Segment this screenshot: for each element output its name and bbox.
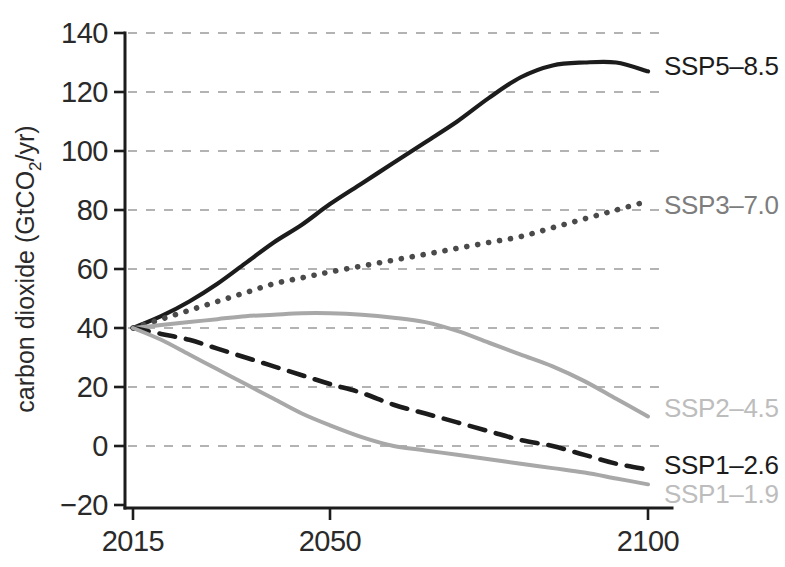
x-tick-label: 2100 xyxy=(617,525,680,557)
series-label-ssp5-8-5: SSP5–8.5 xyxy=(664,51,779,81)
y-tick-label: 40 xyxy=(77,312,108,344)
series-labels: SSP5–8.5SSP3–7.0SSP2–4.5SSP1–2.6SSP1–1.9 xyxy=(664,51,779,509)
gridlines xyxy=(128,33,660,446)
y-tick-label: 60 xyxy=(77,253,108,285)
y-tick-label: 100 xyxy=(61,135,108,167)
y-axis-title-subscript: 2 xyxy=(26,161,45,170)
y-axis-title-text: carbon dioxide (GtCO2/yr) xyxy=(11,125,45,412)
series-line-ssp1-2-6 xyxy=(133,328,648,470)
series-label-ssp3-7-0: SSP3–7.0 xyxy=(664,190,779,220)
y-axis-title-post: /yr) xyxy=(11,125,39,161)
data-series xyxy=(133,62,648,485)
axes xyxy=(125,33,672,508)
series-label-ssp1-2-6: SSP1–2.6 xyxy=(664,450,779,480)
series-line-ssp1-1-9 xyxy=(133,328,648,484)
y-axis-title: carbon dioxide (GtCO2/yr) xyxy=(11,125,45,412)
x-axis-ticks: 201520502100 xyxy=(102,508,680,557)
series-line-ssp3-7-0 xyxy=(133,201,648,328)
chart-canvas: −20020406080100120140 201520502100 SSP5–… xyxy=(0,0,785,567)
series-label-ssp1-1-9: SSP1–1.9 xyxy=(664,479,779,509)
y-tick-label: 80 xyxy=(77,194,108,226)
co2-emissions-chart: −20020406080100120140 201520502100 SSP5–… xyxy=(0,0,785,567)
x-tick-label: 2015 xyxy=(102,525,165,557)
series-line-ssp5-8-5 xyxy=(133,62,648,328)
y-tick-label: 0 xyxy=(92,430,108,462)
series-label-ssp2-4-5: SSP2–4.5 xyxy=(664,393,779,423)
y-tick-label: 140 xyxy=(61,17,108,49)
y-tick-label: −20 xyxy=(60,489,108,521)
y-tick-label: 20 xyxy=(77,371,108,403)
x-tick-label: 2050 xyxy=(299,525,362,557)
y-axis-title-pre: carbon dioxide (GtCO xyxy=(11,171,39,413)
y-tick-label: 120 xyxy=(61,76,108,108)
y-axis-ticks: −20020406080100120140 xyxy=(60,17,125,521)
